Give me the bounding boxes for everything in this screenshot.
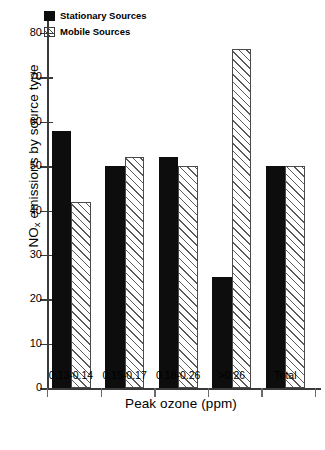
y-axis-title-prefix: NO	[26, 227, 41, 247]
bar-stationary	[159, 157, 179, 388]
y-axis-tick-label: 10	[30, 337, 42, 349]
legend-label-stationary: Stationary Sources	[60, 10, 147, 21]
bar-group	[159, 33, 198, 388]
y-axis-tick-label: 0	[36, 381, 42, 393]
y-axis-tick-label: 30	[30, 248, 42, 260]
y-axis-title-suffix: emissions by source type	[26, 64, 41, 222]
y-axis-tick-label: 50	[30, 159, 42, 171]
legend-swatch-stationary-icon	[44, 11, 55, 21]
y-axis-tick-label: 80	[30, 26, 42, 38]
bar-mobile	[285, 166, 305, 388]
bar-stationary	[266, 166, 286, 388]
y-axis-title-subscript: x	[31, 222, 42, 227]
bar-group	[105, 33, 144, 388]
bar-mobile	[178, 166, 198, 388]
x-axis-line	[41, 388, 321, 390]
bar-group	[212, 33, 251, 388]
y-axis-line	[47, 21, 49, 388]
bar-stationary	[105, 166, 125, 388]
y-axis-tick-label: 60	[30, 115, 42, 127]
legend-item-stationary: Stationary Sources	[44, 9, 147, 22]
bar-mobile	[71, 202, 91, 388]
plot-area: 01020304050607080	[47, 33, 315, 388]
bar-group	[52, 33, 91, 388]
x-axis-tick-mark	[315, 388, 316, 397]
x-axis-tick-label: Total	[245, 369, 325, 381]
bar-mobile	[125, 157, 145, 388]
y-axis-tick-label: 20	[30, 292, 42, 304]
bar-mobile	[232, 49, 252, 388]
x-axis-title: Peak ozone (ppm)	[47, 396, 315, 411]
nox-emissions-bar-chart: NOx emissions by source type Stationary …	[0, 0, 325, 450]
bar-group	[266, 33, 305, 388]
y-axis-tick-label: 70	[30, 70, 42, 82]
bar-stationary	[52, 131, 72, 388]
y-axis-tick-label: 40	[30, 204, 42, 216]
